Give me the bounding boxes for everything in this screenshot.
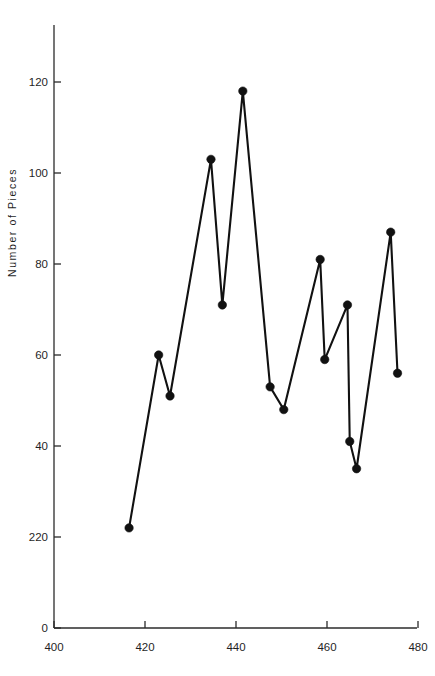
data-point bbox=[316, 255, 324, 263]
data-point bbox=[218, 301, 226, 309]
data-point bbox=[166, 392, 174, 400]
data-point bbox=[207, 155, 215, 163]
x-tick-label: 480 bbox=[408, 641, 427, 653]
x-tick-label: 460 bbox=[317, 641, 336, 653]
data-series-line bbox=[129, 91, 397, 528]
data-point bbox=[343, 301, 351, 309]
x-axis-ticks: 400420440460480 bbox=[44, 621, 427, 653]
y-tick-label: 40 bbox=[35, 440, 48, 452]
axes-group bbox=[54, 25, 417, 628]
y-tick-label: 60 bbox=[35, 349, 48, 361]
y-tick-label: 100 bbox=[29, 167, 48, 179]
line-chart-plot: 1201008060402200 400420440460480 bbox=[0, 0, 435, 676]
y-tick-label: 0 bbox=[42, 622, 48, 634]
data-point bbox=[266, 383, 274, 391]
y-tick-label: 80 bbox=[35, 258, 48, 270]
y-tick-label: 120 bbox=[29, 76, 48, 88]
data-point bbox=[154, 351, 162, 359]
y-axis-ticks: 1201008060402200 bbox=[29, 76, 61, 634]
data-point bbox=[239, 87, 247, 95]
y-tick-label: 220 bbox=[29, 531, 48, 543]
data-point bbox=[280, 405, 288, 413]
x-tick-label: 440 bbox=[226, 641, 245, 653]
data-point bbox=[321, 355, 329, 363]
x-tick-label: 420 bbox=[135, 641, 154, 653]
data-point bbox=[346, 437, 354, 445]
data-point bbox=[352, 465, 360, 473]
data-point bbox=[387, 228, 395, 236]
y-axis-title: Number of Pieces bbox=[6, 107, 18, 277]
x-tick-label: 400 bbox=[44, 641, 63, 653]
chart-container: 1201008060402200 400420440460480 Number … bbox=[0, 0, 435, 676]
data-point bbox=[125, 524, 133, 532]
data-point bbox=[393, 369, 401, 377]
